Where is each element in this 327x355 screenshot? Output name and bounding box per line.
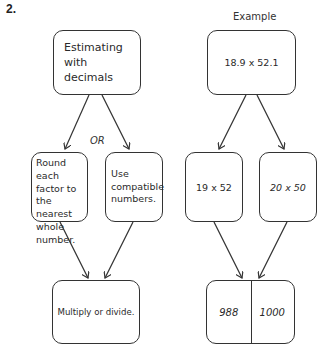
rounded-expression-text: 19 x 52 bbox=[196, 181, 232, 194]
result-compatible-cell: 1000 bbox=[251, 281, 295, 343]
round-factors-box: Round each factor to the nearest whole n… bbox=[31, 152, 88, 222]
arrow-19x52-to-988 bbox=[214, 222, 242, 278]
estimating-with-decimals-text: Estimating with decimals bbox=[64, 40, 130, 85]
compatible-numbers-box: Use compatible numbers. bbox=[105, 152, 163, 222]
arrow-top-to-round bbox=[65, 95, 89, 149]
results-box: 988 1000 bbox=[206, 280, 295, 344]
example-heading: Example bbox=[233, 11, 276, 22]
rounded-expression-box: 19 x 52 bbox=[185, 152, 243, 222]
result-rounded-cell: 988 bbox=[207, 281, 251, 343]
arrow-example-to-19x52 bbox=[219, 95, 246, 149]
multiply-or-divide-box: Multiply or divide. bbox=[52, 280, 140, 344]
arrow-20x50-to-1000 bbox=[259, 222, 287, 278]
round-factors-text: Round each factor to the nearest whole n… bbox=[36, 157, 87, 247]
result-rounded-value: 988 bbox=[219, 306, 238, 319]
example-expression-text: 18.9 x 52.1 bbox=[225, 56, 279, 69]
or-label: OR bbox=[90, 135, 105, 146]
estimating-with-decimals-box: Estimating with decimals bbox=[53, 30, 141, 95]
multiply-or-divide-text: Multiply or divide. bbox=[58, 306, 135, 319]
arrow-example-to-20x50 bbox=[257, 95, 284, 149]
arrow-compatible-to-multiply bbox=[105, 222, 133, 278]
result-compatible-value: 1000 bbox=[260, 306, 285, 319]
compatible-expression-text: 20 x 50 bbox=[270, 181, 306, 194]
arrow-top-to-compatible bbox=[102, 95, 129, 149]
compatible-expression-box: 20 x 50 bbox=[259, 152, 317, 222]
compatible-numbers-text: Use compatible numbers. bbox=[111, 168, 163, 206]
example-expression-box: 18.9 x 52.1 bbox=[207, 30, 296, 95]
